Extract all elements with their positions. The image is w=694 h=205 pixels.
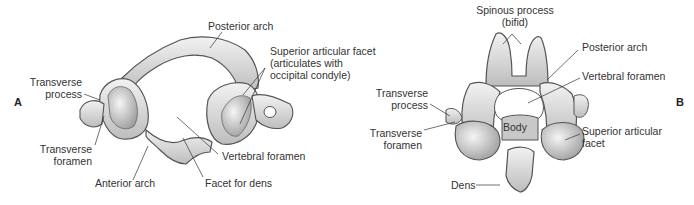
- label-transverse-process-b-line2: process: [366, 99, 428, 111]
- label-superior-facet-b-line1: Superior articular: [582, 125, 662, 137]
- label-transverse-process-a-line2: process: [20, 88, 82, 100]
- label-body: Body: [503, 121, 527, 133]
- label-facet-for-dens: Facet for dens: [205, 177, 272, 189]
- diagram-artwork: [0, 0, 694, 205]
- label-superior-facet-a-line3: occipital condyle): [270, 69, 351, 81]
- label-superior-facet-a-line2: (articulates with: [270, 57, 343, 69]
- label-superior-facet-a-line1: Superior articular facet: [270, 45, 376, 57]
- label-superior-facet-b-line2: facet: [582, 137, 605, 149]
- label-transverse-process-b-line1: Transverse: [366, 87, 428, 99]
- label-transverse-foramen-a-line2: foramen: [28, 155, 92, 167]
- label-transverse-foramen-b-line1: Transverse: [360, 127, 422, 139]
- axis-illustration: [446, 33, 588, 192]
- label-transverse-foramen-a-line1: Transverse: [28, 143, 92, 155]
- label-posterior-arch-b: Posterior arch: [582, 41, 647, 53]
- label-dens: Dens: [451, 179, 476, 191]
- label-spinous-process-line2: (bifid): [470, 16, 560, 28]
- panel-label-b: B: [676, 96, 684, 108]
- label-transverse-process-a-line1: Transverse: [20, 76, 82, 88]
- label-transverse-foramen-b-line2: foramen: [360, 139, 422, 151]
- label-spinous-process-line1: Spinous process: [470, 4, 560, 16]
- label-vertebral-foramen-a: Vertebral foramen: [222, 150, 305, 162]
- label-posterior-arch-a: Posterior arch: [208, 20, 273, 32]
- label-vertebral-foramen-b: Vertebral foramen: [582, 70, 665, 82]
- label-anterior-arch: Anterior arch: [95, 177, 155, 189]
